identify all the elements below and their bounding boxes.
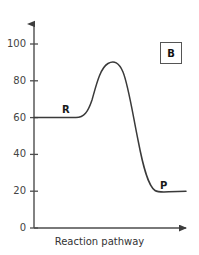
y-tick-label-0: 0 xyxy=(0,223,26,233)
reactants-label: R xyxy=(62,105,70,115)
x-axis-title: Reaction pathway xyxy=(0,236,199,248)
panel-label-text: B xyxy=(167,48,175,59)
y-tick-label-40: 40 xyxy=(0,149,26,159)
products-label: P xyxy=(160,181,167,191)
y-tick-label-80: 80 xyxy=(0,76,26,86)
panel-label-badge: B xyxy=(160,42,182,64)
y-tick-label-100: 100 xyxy=(0,39,26,49)
y-tick-label-20: 20 xyxy=(0,186,26,196)
energy-profile-figure: 100 80 60 40 20 0 R P B Reaction pathway xyxy=(0,0,199,255)
energy-profile-plot xyxy=(0,0,199,255)
energy-profile-curve xyxy=(34,62,186,192)
y-tick-label-60: 60 xyxy=(0,113,26,123)
